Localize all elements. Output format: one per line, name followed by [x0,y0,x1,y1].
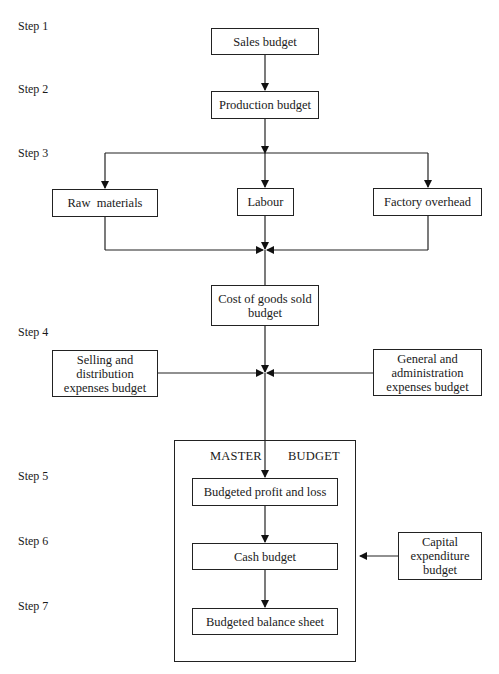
budgeted-balance-sheet-node: Budgeted balance sheet [192,608,338,635]
general-line-3: expenses budget [386,380,468,394]
selling-line-3: expenses budget [64,381,146,395]
cogs-line-2: budget [248,306,282,320]
budgeted-profit-loss-node: Budgeted profit and loss [192,478,338,506]
capital-line-3: budget [423,563,457,577]
master-label-right: BUDGET [288,449,340,464]
general-line-1: General and [397,352,458,366]
labour-node: Labour [237,188,294,216]
capital-line-1: Capital [422,535,458,549]
cogs-line-1: Cost of goods sold [218,292,311,306]
master-label-left: MASTER [210,449,262,464]
cogs-budget-node: Cost of goods sold budget [211,285,319,326]
selling-line-1: Selling and [77,353,134,367]
factory-overhead-node: Factory overhead [373,188,482,216]
selling-line-2: distribution [76,367,134,381]
general-administration-node: General and administration expenses budg… [373,349,482,396]
sales-budget-node: Sales budget [211,28,319,55]
capital-expenditure-node: Capital expenditure budget [398,532,482,580]
raw-materials-node: Raw materials [52,189,158,217]
general-line-2: administration [391,366,463,380]
capital-line-2: expenditure [410,549,469,563]
production-budget-node: Production budget [211,91,319,119]
cash-budget-node: Cash budget [192,543,338,570]
selling-distribution-node: Selling and distribution expenses budget [52,350,158,397]
